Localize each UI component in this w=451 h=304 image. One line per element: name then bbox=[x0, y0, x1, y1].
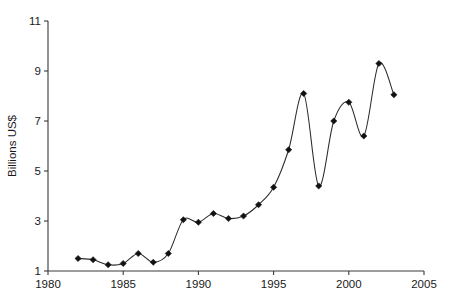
x-tick-label-2000: 2000 bbox=[336, 278, 362, 290]
data-point-1995: 1995: 4.35 bbox=[271, 184, 277, 190]
data-point-1986: 1986: 1.7 bbox=[135, 250, 141, 256]
x-tick-label-1990: 1990 bbox=[186, 278, 212, 290]
y-tick-label-1: 1 bbox=[35, 265, 41, 277]
x-tick-label-1980: 1980 bbox=[35, 278, 61, 290]
data-point-markers: 1982: 1.51983: 1.451984: 1.251985: 1.319… bbox=[75, 60, 397, 267]
data-point-1989: 1989: 3.05 bbox=[180, 217, 186, 223]
data-point-1982: 1982: 1.5 bbox=[75, 255, 81, 261]
chart-figure: 1357911198019851990199520002005 Billions… bbox=[0, 0, 451, 304]
data-point-2003: 2003: 8.05 bbox=[391, 92, 397, 98]
data-point-1990: 1990: 2.95 bbox=[195, 219, 201, 225]
data-point-1993: 1993: 3.2 bbox=[240, 213, 246, 219]
x-tick-label-1995: 1995 bbox=[261, 278, 287, 290]
x-tick-label-1985: 1985 bbox=[110, 278, 136, 290]
y-tick-label-7: 7 bbox=[35, 115, 41, 127]
data-point-1991: 1991: 3.3 bbox=[210, 210, 216, 216]
axis-tick-labels: 1357911198019851990199520002005 bbox=[29, 15, 437, 289]
line-chart: 1357911198019851990199520002005 Billions… bbox=[0, 0, 451, 304]
axes bbox=[48, 21, 424, 271]
data-point-1996: 1996: 5.85 bbox=[286, 147, 292, 153]
data-point-1999: 1999: 7 bbox=[331, 118, 337, 124]
data-point-1984: 1984: 1.25 bbox=[105, 262, 111, 268]
y-axis-title-text: Billions US$ bbox=[6, 114, 18, 177]
y-tick-label-3: 3 bbox=[35, 215, 41, 227]
y-axis-title: Billions US$ bbox=[6, 114, 18, 177]
series-line-billions-us$ bbox=[78, 63, 394, 266]
axis-ticks bbox=[44, 21, 424, 275]
data-point-2000: 2000: 7.75 bbox=[346, 99, 352, 105]
y-tick-label-9: 9 bbox=[35, 65, 41, 77]
x-tick-label-2005: 2005 bbox=[411, 278, 437, 290]
data-point-1985: 1985: 1.3 bbox=[120, 260, 126, 266]
data-series bbox=[78, 63, 394, 266]
data-point-1997: 1997: 8.1 bbox=[301, 90, 307, 96]
data-point-1992: 1992: 3.1 bbox=[225, 215, 231, 221]
data-point-1987: 1987: 1.35 bbox=[150, 259, 156, 265]
y-tick-label-11: 11 bbox=[29, 15, 41, 27]
data-point-2002: 2002: 9.3 bbox=[376, 60, 382, 66]
data-point-1983: 1983: 1.45 bbox=[90, 257, 96, 263]
data-point-2001: 2001: 6.4 bbox=[361, 133, 367, 139]
y-tick-label-5: 5 bbox=[35, 165, 41, 177]
